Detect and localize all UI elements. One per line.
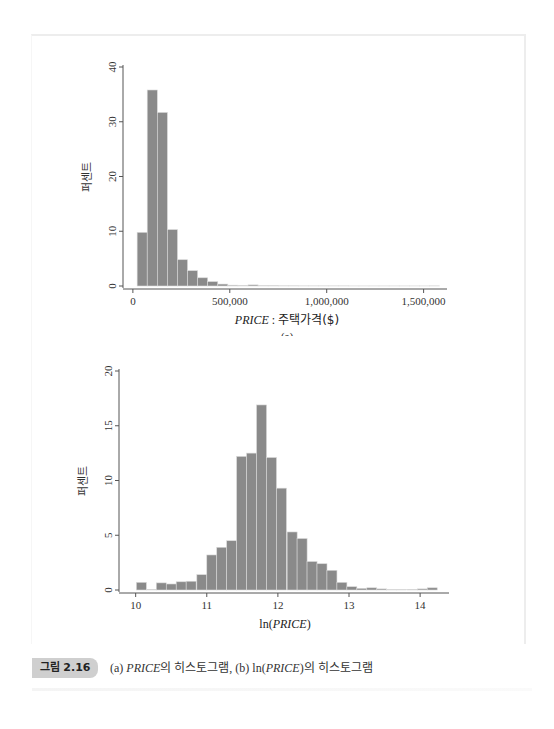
x-tick-label: 13 — [344, 599, 356, 611]
y-tick-label: 5 — [102, 532, 114, 538]
y-axis-label: 퍼센트 — [77, 466, 89, 496]
x-tick-label: 1,000,000 — [305, 295, 350, 307]
histogram-bar — [347, 587, 357, 590]
histogram-bar — [257, 405, 267, 590]
y-tick-label: 0 — [102, 587, 114, 593]
histogram-bar — [227, 541, 237, 590]
histogram-price: 010203040퍼센트0500,0001,000,0001,500,000PR… — [32, 36, 524, 336]
subplot-label: (b) — [279, 634, 292, 636]
histogram-bar — [147, 90, 157, 286]
y-axis-label: 퍼센트 — [81, 162, 93, 192]
histogram-bar — [186, 581, 196, 590]
y-tick-label: 10 — [102, 475, 114, 487]
histogram-bar — [176, 582, 186, 590]
histogram-bar — [177, 260, 187, 286]
histogram-bar — [417, 589, 427, 590]
histogram-bar — [198, 278, 208, 286]
histogram-bar — [297, 539, 307, 590]
histogram-bar — [156, 583, 166, 590]
page-header-mark — [0, 0, 60, 6]
histogram-bar — [228, 285, 238, 286]
y-tick-label: 10 — [106, 225, 118, 237]
histogram-bar — [357, 588, 367, 590]
histogram-bar — [317, 564, 327, 590]
x-tick-label: 10 — [130, 599, 142, 611]
histogram-bar — [367, 588, 377, 590]
figure-panel: 010203040퍼센트0500,0001,000,0001,500,000PR… — [31, 34, 526, 644]
histogram-bar — [188, 271, 198, 286]
histogram-bar — [157, 112, 167, 286]
x-tick-label: 12 — [272, 599, 283, 611]
histogram-ln-price: 05101520퍼센트1011121314ln(PRICE)(b) — [32, 336, 524, 636]
x-axis-label: ln(PRICE) — [259, 617, 310, 631]
histogram-bar — [197, 575, 207, 590]
histogram-bar — [217, 547, 227, 590]
histogram-bar — [208, 282, 218, 286]
figure-label-badge: 그림 2.16 — [32, 658, 98, 678]
bottom-divider — [32, 688, 532, 691]
y-tick-label: 20 — [106, 171, 118, 183]
y-tick-label: 20 — [102, 365, 114, 377]
y-tick-label: 0 — [106, 283, 118, 289]
figure-caption-text: (a) PRICE의 히스토그램, (b) ln(PRICE)의 히스토그램 — [110, 660, 373, 676]
histogram-bar — [137, 232, 147, 286]
x-tick-label: 1,500,000 — [402, 295, 447, 307]
y-tick-label: 30 — [106, 116, 118, 128]
x-tick-label: 0 — [130, 295, 136, 307]
histogram-bar — [248, 285, 258, 286]
y-tick-label: 40 — [106, 61, 118, 73]
y-tick-label: 15 — [102, 420, 114, 432]
histogram-bar — [166, 584, 176, 590]
x-tick-label: 500,000 — [212, 295, 248, 307]
histogram-bar — [407, 589, 417, 590]
histogram-bar — [237, 456, 247, 590]
histogram-bar — [427, 588, 437, 590]
histogram-bar — [337, 582, 347, 590]
histogram-bar — [307, 562, 317, 590]
histogram-bar — [377, 589, 387, 590]
histogram-bar — [287, 532, 297, 590]
x-tick-label: 11 — [201, 599, 212, 611]
histogram-bar — [218, 284, 228, 286]
histogram-bar — [327, 570, 337, 590]
histogram-bar — [207, 555, 217, 590]
histogram-bar — [267, 458, 277, 590]
histogram-bar — [247, 453, 257, 590]
histogram-bar — [167, 230, 177, 286]
x-tick-label: 14 — [415, 599, 427, 611]
histogram-bar — [136, 582, 146, 590]
x-axis-label: PRICE : 주택가격($) — [234, 313, 339, 327]
histogram-bar — [276, 488, 286, 590]
figure-caption: 그림 2.16 (a) PRICE의 히스토그램, (b) ln(PRICE)의… — [32, 658, 522, 680]
histogram-bar — [238, 285, 248, 286]
histogram-bar — [146, 589, 156, 590]
